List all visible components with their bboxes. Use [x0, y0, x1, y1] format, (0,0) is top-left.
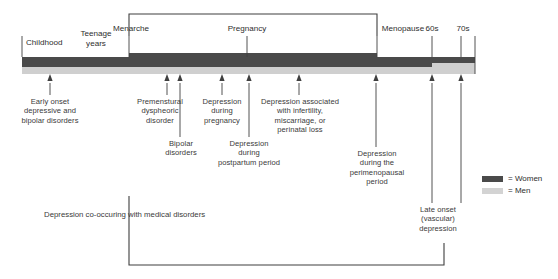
- legend-label-men: = Men: [508, 186, 530, 195]
- timeline-bar-men-1: [377, 67, 432, 74]
- annotation-depression-during-pregnancy: Depression during pregnancy: [193, 97, 251, 125]
- legend-swatch-women: [482, 176, 503, 182]
- stage-label-childhood: Childhood: [26, 38, 62, 48]
- stage-label-pregnancy: Pregnancy: [228, 24, 267, 34]
- annotation-arrow-4: [246, 74, 251, 81]
- legend: = Women = Men: [482, 174, 542, 198]
- annotation-premenstrual-dysphoric: Premenstural dyspheoric disorder: [127, 97, 193, 125]
- annotation-infertility-miscarriage-perinatal-loss: Depression associated with infertility, …: [249, 97, 351, 135]
- timeline-bar-women-1: [129, 53, 377, 67]
- legend-label-women: = Women: [508, 174, 542, 183]
- annotation-bipolar-disorders: Bipolar disorders: [152, 139, 210, 158]
- annotation-arrow-5: [296, 74, 301, 81]
- bottom-bracket-medical-disorders: [129, 196, 444, 265]
- timeline-bar-men-2: [432, 63, 475, 74]
- annotation-arrow-8: [458, 74, 463, 81]
- timeline-bar-women-2: [377, 57, 432, 67]
- annotation-arrow-1: [164, 74, 169, 81]
- legend-item-men: = Men: [482, 186, 542, 195]
- stage-label-60s: 60s: [425, 24, 438, 34]
- annotation-late-onset-vascular-depression: Late onset (vascular) depression: [403, 205, 473, 233]
- annotation-arrow-0: [47, 74, 52, 81]
- timeline-bar-women-0: [22, 57, 129, 67]
- annotation-arrow-3: [219, 74, 224, 81]
- legend-swatch-men: [482, 188, 503, 194]
- bottom-bracket-label: Depression co-occuring with medical diso…: [44, 210, 205, 219]
- timeline-bar-women-3: [432, 57, 475, 63]
- annotation-perimenopausal-depression: Depression during the perimenopausal per…: [338, 149, 416, 187]
- annotation-postpartum-depression: Depression during postpartum period: [210, 139, 288, 167]
- annotation-arrow-7: [429, 74, 434, 81]
- timeline-bar-men-0: [22, 67, 377, 74]
- depression-life-cycle-diagram: Childhood Teenage years Menarche Pregnan…: [0, 0, 558, 279]
- annotation-arrow-6: [373, 74, 378, 81]
- legend-item-women: = Women: [482, 174, 542, 183]
- annotation-arrow-2: [177, 74, 182, 81]
- annotation-early-onset: Early onset depressive and bipolar disor…: [7, 97, 93, 125]
- stage-label-menarche: Menarche: [113, 24, 149, 34]
- stage-label-70s: 70s: [456, 24, 469, 34]
- stage-label-teenage-years: Teenage years: [80, 29, 111, 48]
- stage-label-menopause: Menopause: [382, 24, 424, 34]
